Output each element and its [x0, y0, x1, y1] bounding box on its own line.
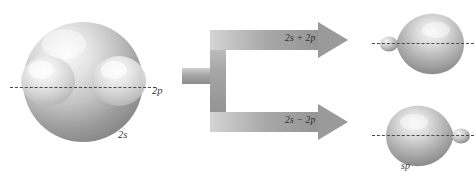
- left-lobe-highlight: [28, 61, 54, 79]
- sp-top-highlight: [422, 22, 450, 38]
- label-sp: sp: [401, 160, 410, 171]
- left-orbital-axis: [10, 87, 156, 88]
- sp-bottom-highlight: [400, 114, 428, 130]
- arrow-label-sum: 2s + 2p: [285, 33, 316, 43]
- label-2p: 2p: [152, 85, 163, 96]
- arrow-bottom-head: [318, 104, 348, 140]
- sp-bottom-axis: [372, 135, 474, 136]
- sp-hybrid-bottom: [374, 96, 476, 176]
- left-orbital-group: [8, 6, 168, 156]
- arrow-stem: [182, 68, 214, 84]
- sp-top-small-lobe: [380, 37, 398, 52]
- sp-hybrid-top: [374, 4, 476, 84]
- sp-bottom-small-lobe: [452, 129, 470, 144]
- figure-canvas: 2p 2s: [0, 0, 476, 183]
- arrow-top-head: [318, 22, 348, 58]
- branching-arrow-group: [182, 20, 357, 165]
- label-2s: 2s: [118, 129, 127, 140]
- sp-top-axis: [372, 43, 474, 44]
- sphere-highlight: [42, 29, 86, 59]
- right-lobe-highlight: [101, 61, 127, 79]
- arrow-label-difference: 2s − 2p: [285, 115, 316, 125]
- 2s-2p-orbital-svg: [8, 6, 168, 156]
